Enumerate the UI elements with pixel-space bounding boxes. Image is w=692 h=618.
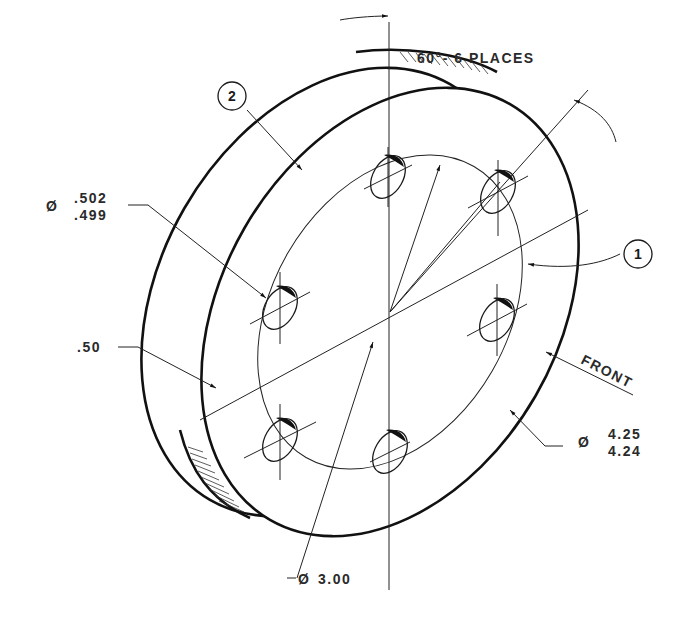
angle-note: 60°- 6 PLACES — [417, 50, 535, 66]
hole-diameter-symbol: Ø — [46, 198, 58, 214]
balloon-2-number: 2 — [228, 88, 236, 104]
thickness-dimension: .50 — [77, 339, 101, 355]
outer-diameter-lower: 4.24 — [608, 443, 641, 459]
hole-diameter-lower: .499 — [74, 207, 107, 223]
hole-diameter-upper: .502 — [74, 190, 107, 206]
outer-diameter-symbol: Ø — [578, 434, 590, 450]
front-label: FRONT — [579, 351, 636, 391]
balloon-1: 1 — [624, 240, 652, 268]
flange-drawing: 2 1 60°- 6 PLACES Ø .502 .499 .50 Ø 4.25… — [0, 0, 692, 618]
outer-diameter-upper: 4.25 — [608, 426, 641, 442]
balloon-2: 2 — [218, 82, 246, 110]
bolt-circle-symbol: Ø — [298, 571, 310, 587]
bolt-circle-value: 3.00 — [318, 571, 351, 587]
balloon-1-number: 1 — [634, 246, 642, 262]
